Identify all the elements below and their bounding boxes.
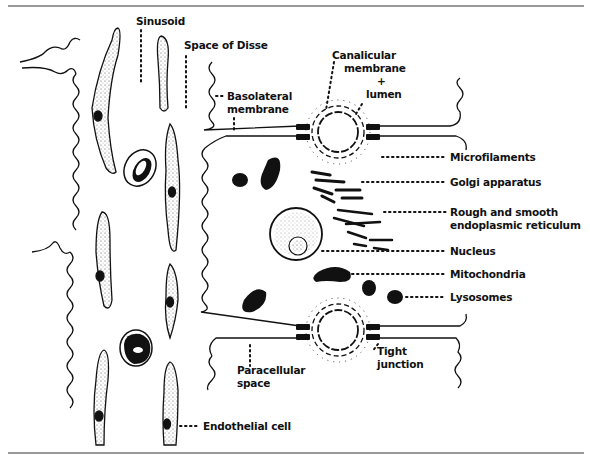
lateral-membranes [380,78,466,388]
lysosome-2 [387,290,403,304]
liver-sinusoid-diagram: Sinusoid Space of Disse Basolateral memb… [0,0,590,467]
label-golgi-apparatus: Golgi apparatus [450,176,541,188]
label-canalicular-4: lumen [366,88,402,100]
label-canalicular-2: membrane [344,62,406,74]
label-canalicular-1: Canalicular [332,49,396,61]
hepatocyte-nucleus [270,208,322,260]
label-basolateral-membrane-2: membrane [227,103,289,115]
red-blood-cells [118,144,163,366]
diagram-artwork [0,0,590,467]
small-organelle [232,173,248,187]
label-microfilaments: Microfilaments [450,151,536,163]
label-paracellular-1: Paracellular [237,364,305,376]
label-tight-junction-1: Tight [377,345,407,357]
label-basolateral-membrane-1: Basolateral [227,90,292,102]
label-paracellular-2: space [237,377,270,389]
label-lysosomes: Lysosomes [450,291,512,303]
mitochondrion-1 [261,158,281,190]
mitochondrion-3 [242,289,266,312]
label-endothelial-cell: Endothelial cell [203,420,291,432]
endothelial-cells [92,28,180,445]
label-er-1: Rough and smooth [450,206,558,218]
mitochondrion-2 [313,267,350,282]
label-canalicular-3: + [377,75,386,87]
label-mitochondria: Mitochondria [450,268,526,280]
label-tight-junction-2: junction [377,358,423,370]
left-hepatocyte-membrane [20,38,80,408]
label-sinusoid: Sinusoid [136,15,185,27]
endoplasmic-reticulum [334,210,392,250]
lysosome-1 [362,280,376,296]
label-space-of-disse: Space of Disse [184,39,268,51]
golgi-apparatus [312,172,362,202]
label-er-2: endoplasmic reticulum [450,219,581,231]
label-nucleus: Nucleus [450,245,496,257]
